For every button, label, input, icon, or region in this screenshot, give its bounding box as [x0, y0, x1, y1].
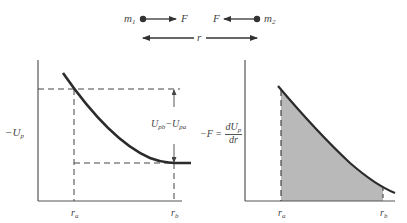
mass1-dot: [140, 16, 146, 22]
mass2-dot: [254, 16, 260, 22]
force-graph: [245, 60, 395, 201]
diagram-canvas: [0, 0, 407, 223]
right-tick-rb: rb: [380, 208, 387, 220]
left-y-axis-label: −Up: [5, 127, 24, 140]
right-tick-ra: ra: [278, 208, 285, 220]
right-y-axis-label: −F = dUp dr: [200, 122, 242, 146]
left-tick-rb: rb: [171, 208, 178, 220]
derivative-fraction: dUp dr: [225, 122, 243, 146]
force1-label: F: [181, 13, 188, 24]
force2-label: F: [213, 13, 220, 24]
left-tick-ra: ra: [71, 208, 78, 220]
energy-difference-label: Upb−Upa: [151, 119, 186, 131]
separation-label: r: [197, 32, 201, 43]
mass1-label: m1: [124, 13, 135, 26]
mass2-label: m2: [264, 13, 275, 26]
